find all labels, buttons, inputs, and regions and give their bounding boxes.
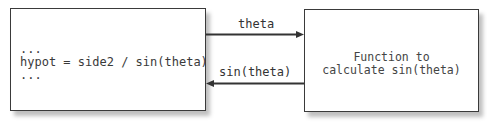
arrow-label-sin-theta: sin(theta) <box>219 65 291 79</box>
arrow-right-icon <box>206 31 304 38</box>
arrow-label-theta: theta <box>238 17 274 31</box>
arrow-left-icon <box>206 80 304 87</box>
